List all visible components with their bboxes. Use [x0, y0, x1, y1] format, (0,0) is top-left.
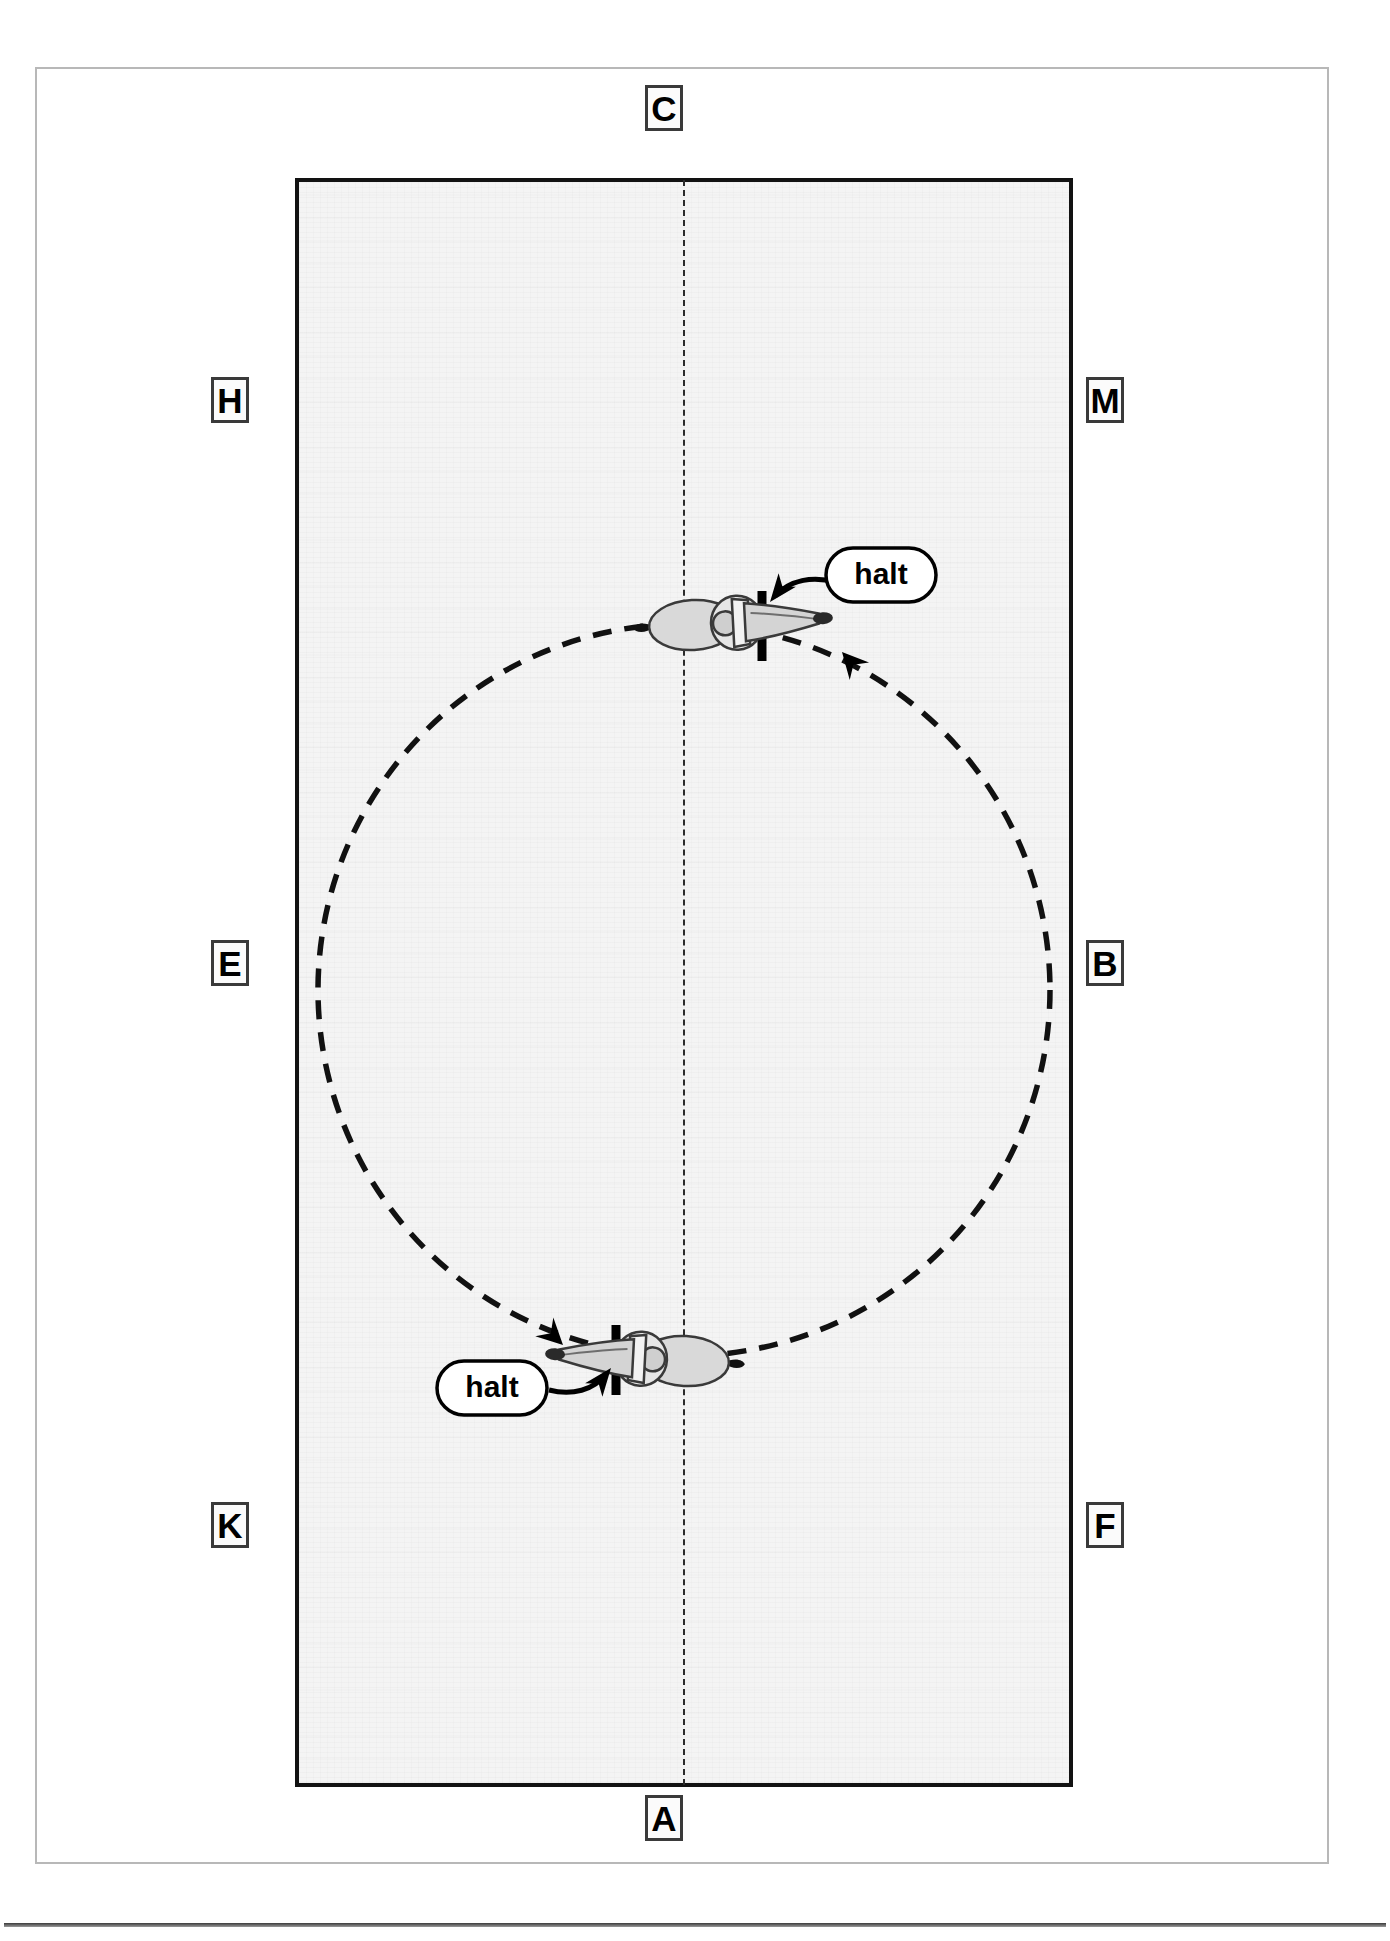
marker-m-label: M [1090, 383, 1119, 418]
marker-h-label: H [217, 383, 242, 418]
marker-a[interactable]: A [645, 1795, 683, 1841]
marker-b[interactable]: B [1086, 940, 1124, 986]
marker-k-label: K [217, 1508, 242, 1543]
footer-rule [4, 1923, 1386, 1927]
marker-e-label: E [218, 946, 241, 981]
arena-centre-line [683, 180, 685, 1785]
marker-f[interactable]: F [1086, 1502, 1124, 1548]
diagram-page: C H M E B K F A [0, 0, 1390, 1941]
marker-c-label: C [651, 91, 676, 126]
marker-f-label: F [1094, 1508, 1115, 1543]
marker-e[interactable]: E [211, 940, 249, 986]
marker-b-label: B [1092, 946, 1117, 981]
marker-h[interactable]: H [211, 377, 249, 423]
marker-m[interactable]: M [1086, 377, 1124, 423]
marker-k[interactable]: K [211, 1502, 249, 1548]
marker-c[interactable]: C [645, 85, 683, 131]
marker-a-label: A [651, 1801, 676, 1836]
